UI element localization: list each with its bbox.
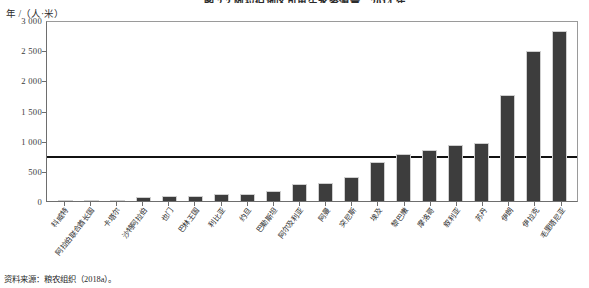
bar xyxy=(110,200,125,201)
x-axis-label-slot: 苏丹 xyxy=(470,206,496,258)
x-axis-label-slot: 伊朗 xyxy=(496,206,522,258)
x-axis-category-labels: 科威特阿拉伯联合酋长国卡塔尔沙特阿拉伯也门巴林王国利比亚约旦巴勒斯坦阿尔及利亚阿… xyxy=(46,206,578,258)
x-axis-label-slot: 也门 xyxy=(156,206,182,258)
x-axis-label-slot: 阿拉伯联合酋长国 xyxy=(77,206,103,258)
bar-slot xyxy=(443,22,469,201)
figure-container: 图 2.3 阿拉伯地区可再生水资源量，2014 年 年 /（人·米） 05001… xyxy=(0,0,589,288)
bar xyxy=(292,184,307,201)
figure-title: 图 2.3 阿拉伯地区可再生水资源量，2014 年 xyxy=(140,0,470,3)
bar-slot xyxy=(156,22,182,201)
bar-series xyxy=(47,22,577,201)
bar xyxy=(448,145,463,201)
x-axis-category-label: 突尼斯 xyxy=(338,207,358,229)
y-axis-tick-label: 1 000 xyxy=(2,137,42,147)
x-axis-label-slot: 突尼斯 xyxy=(339,206,365,258)
x-axis-label-slot: 利比亚 xyxy=(208,206,234,258)
bar-slot xyxy=(469,22,495,201)
bar xyxy=(240,194,255,201)
x-axis-category-label: 科威特 xyxy=(51,207,71,229)
bar xyxy=(422,150,437,201)
bar xyxy=(162,196,177,201)
bar xyxy=(500,95,515,201)
x-axis-category-label: 约旦 xyxy=(238,207,253,223)
x-axis-label-slot: 埃及 xyxy=(365,206,391,258)
x-axis-category-label: 也门 xyxy=(160,207,175,223)
y-axis-tick-label: 2 000 xyxy=(2,76,42,86)
x-axis-label-slot: 叙利亚 xyxy=(443,206,469,258)
x-axis-category-label: 叙利亚 xyxy=(443,207,463,229)
bar-slot xyxy=(495,22,521,201)
bar-slot xyxy=(208,22,234,201)
bar-slot xyxy=(417,22,443,201)
x-axis-label-slot: 毛里塔尼亚 xyxy=(548,206,574,258)
bar xyxy=(396,154,411,201)
bar-slot xyxy=(547,22,573,201)
x-axis-label-slot: 约旦 xyxy=(234,206,260,258)
source-note: 资料来源：粮农组织（2018a）。 xyxy=(4,272,116,284)
y-axis-tick-label: 0 xyxy=(2,197,42,207)
bar-slot xyxy=(234,22,260,201)
bar-slot xyxy=(391,22,417,201)
y-axis-tick-label: 1 500 xyxy=(2,107,42,117)
bar-slot xyxy=(365,22,391,201)
x-axis-label-slot: 黎巴嫩 xyxy=(391,206,417,258)
bar-slot xyxy=(521,22,547,201)
x-axis-category-label: 摩洛哥 xyxy=(417,207,437,229)
bar-slot xyxy=(78,22,104,201)
x-axis-category-label: 埃及 xyxy=(369,207,384,223)
bar xyxy=(84,200,99,201)
bar-slot xyxy=(339,22,365,201)
bar-slot xyxy=(312,22,338,201)
x-axis-category-label: 阿曼 xyxy=(317,207,332,223)
x-axis-label-slot: 巴林王国 xyxy=(182,206,208,258)
x-axis-category-label: 卡塔尔 xyxy=(103,207,123,229)
y-axis-tick-label: 3 000 xyxy=(2,16,42,26)
x-axis-category-label: 黎巴嫩 xyxy=(391,207,411,229)
bar xyxy=(552,31,567,201)
bar xyxy=(370,162,385,201)
bar-slot xyxy=(130,22,156,201)
x-axis-label-slot: 阿尔及利亚 xyxy=(286,206,312,258)
x-axis-label-slot: 摩洛哥 xyxy=(417,206,443,258)
bar xyxy=(136,197,151,201)
bar xyxy=(318,183,333,201)
bar-slot xyxy=(286,22,312,201)
bar xyxy=(526,51,541,201)
bar xyxy=(188,196,203,201)
x-axis-category-label: 伊朗 xyxy=(500,207,515,223)
y-axis-tick-label: 2 500 xyxy=(2,46,42,56)
x-axis-label-slot: 阿曼 xyxy=(313,206,339,258)
bar xyxy=(344,177,359,201)
bar xyxy=(214,194,229,201)
x-axis-category-label: 伊拉克 xyxy=(522,207,542,229)
x-axis-label-slot: 沙特阿拉伯 xyxy=(129,206,155,258)
bar-slot xyxy=(52,22,78,201)
bar-slot xyxy=(182,22,208,201)
y-axis-tick-label: 500 xyxy=(2,167,42,177)
bar xyxy=(266,191,281,201)
bar-slot xyxy=(104,22,130,201)
x-axis-category-label: 苏丹 xyxy=(474,207,489,223)
bar xyxy=(58,200,73,201)
x-axis-category-label: 利比亚 xyxy=(208,207,228,229)
plot-area xyxy=(46,21,578,202)
bar xyxy=(474,143,489,201)
bar-slot xyxy=(260,22,286,201)
